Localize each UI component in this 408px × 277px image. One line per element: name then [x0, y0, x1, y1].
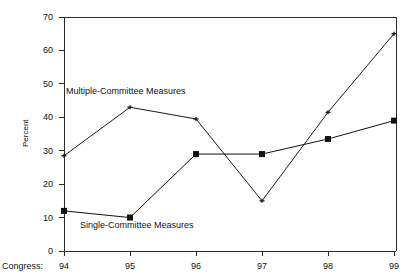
data-point-marker: [391, 118, 397, 124]
series-1: [62, 32, 397, 203]
annotation-single-committee-measures: Single-Committee Measures: [80, 221, 194, 230]
data-point-marker: [325, 136, 331, 142]
y-tick-label-60: 60: [31, 46, 53, 55]
y-tick-label-20: 20: [31, 180, 53, 189]
line-chart: 70 60 50 40 30 20 10 0 94 95 96 97 98 99…: [0, 0, 408, 277]
y-tick-label-30: 30: [31, 147, 53, 156]
x-tick-label-96: 96: [184, 262, 208, 271]
x-axis-ticks: [64, 251, 394, 256]
x-tick-label-99: 99: [382, 262, 406, 271]
y-tick-label-70: 70: [31, 13, 53, 22]
y-tick-label-0: 0: [31, 247, 53, 256]
x-axis-title: Congress:: [2, 262, 43, 271]
x-tick-label-95: 95: [118, 262, 142, 271]
data-series-layer: [61, 32, 397, 221]
y-axis-title: Percent: [22, 119, 30, 147]
annotation-multiple-committee-measures: Multiple-Committee Measures: [66, 87, 186, 96]
x-tick-label-97: 97: [250, 262, 274, 271]
y-tick-label-10: 10: [31, 214, 53, 223]
y-tick-label-50: 50: [31, 80, 53, 89]
series-line: [64, 34, 394, 201]
data-point-marker: [61, 208, 67, 214]
chart-plot-area: [0, 0, 408, 277]
series-line: [64, 121, 394, 218]
y-tick-label-40: 40: [31, 113, 53, 122]
data-point-marker: [193, 151, 199, 157]
x-tick-label-94: 94: [52, 262, 76, 271]
x-tick-label-98: 98: [316, 262, 340, 271]
data-point-marker: [259, 151, 265, 157]
series-2: [61, 118, 397, 221]
y-axis-ticks: [59, 17, 64, 251]
